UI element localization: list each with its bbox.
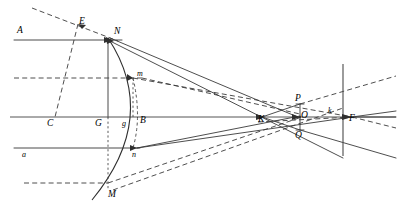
label-m: m xyxy=(137,69,143,78)
label-M: M xyxy=(108,189,116,199)
label-k: k xyxy=(328,106,332,115)
label-K: K xyxy=(258,114,264,124)
optics-figure: A E N m C G g B K P O Q k F a n M xyxy=(0,0,406,207)
label-C: C xyxy=(47,118,53,128)
label-G: G xyxy=(95,118,102,128)
label-N: N xyxy=(114,26,120,36)
label-Q: Q xyxy=(295,130,302,140)
label-a: a xyxy=(22,150,26,159)
label-P: P xyxy=(295,93,301,103)
label-F: F xyxy=(349,113,355,123)
point-label-layer: A E N m C G g B K P O Q k F a n M xyxy=(0,0,406,207)
label-E: E xyxy=(79,16,85,26)
label-B: B xyxy=(140,115,146,125)
label-g: g xyxy=(122,119,126,128)
label-A: A xyxy=(17,25,23,35)
label-n: n xyxy=(132,150,136,159)
label-O: O xyxy=(301,110,308,120)
